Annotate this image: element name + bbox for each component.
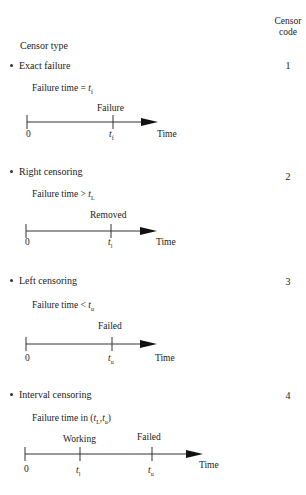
tick-sub: u	[111, 359, 114, 365]
tick-label: tl	[76, 465, 80, 477]
arrow-head-icon	[140, 340, 157, 348]
time-axis	[0, 110, 170, 130]
event-label: Failed	[98, 321, 122, 331]
censor-type-header: Censor type	[20, 40, 68, 51]
censor-code: 1	[278, 60, 298, 71]
formula-sub: f	[91, 89, 93, 95]
origin-label: 0	[26, 129, 31, 139]
section-title: Left censoring	[10, 275, 77, 286]
censor-code: 2	[278, 171, 298, 182]
axis-label: Time	[157, 129, 177, 139]
axis-label: Time	[156, 237, 176, 247]
formula-text: Failure time =	[32, 83, 88, 93]
section-title-text: Right censoring	[19, 166, 83, 177]
formula: Failure time in (tL,tu)	[32, 413, 111, 425]
formula-text: Failure time <	[32, 300, 88, 310]
origin-label: 0	[25, 237, 30, 247]
formula: Failure time < tu	[32, 300, 94, 312]
event-label: Removed	[90, 210, 126, 220]
censor-code: 4	[278, 390, 298, 401]
tick-sub: l	[79, 471, 81, 477]
bullet-icon	[10, 170, 13, 173]
time-axis	[0, 333, 170, 353]
formula-text: Failure time >	[32, 189, 88, 199]
section-title: Exact failure	[10, 60, 70, 71]
tick-label: tf	[109, 129, 114, 141]
tick-sub: f	[112, 135, 114, 141]
censor-code-header-line1: Censor	[268, 16, 306, 27]
tick-sub: u	[151, 471, 154, 477]
formula: Failure time > tL	[32, 189, 95, 201]
censor-code-header: Censor code	[268, 16, 306, 38]
origin-label: 0	[24, 464, 29, 474]
arrow-head-icon	[141, 118, 158, 126]
tick-label: tu	[148, 465, 154, 477]
axis-label: Time	[199, 460, 219, 470]
arrow-head-icon	[186, 450, 203, 458]
origin-label: 0	[25, 353, 30, 363]
tick-label: tu	[108, 353, 114, 365]
section-title: Interval censoring	[10, 389, 91, 400]
arrow-head-icon	[140, 227, 157, 235]
bullet-icon	[10, 393, 13, 396]
formula-sub: u	[91, 306, 94, 312]
bullet-icon	[10, 64, 13, 67]
formula-text: Failure time in (	[32, 413, 93, 423]
formula-text: )	[108, 413, 111, 423]
bullet-icon	[10, 279, 13, 282]
tick-label: tl	[108, 237, 112, 249]
event-label-working: Working	[63, 434, 96, 444]
section-title-text: Left censoring	[19, 275, 77, 286]
formula: Failure time = tf	[32, 83, 93, 95]
censor-code-header-line2: code	[268, 27, 306, 38]
axis-label: Time	[155, 353, 175, 363]
time-axis	[0, 446, 210, 466]
censor-code: 3	[278, 276, 298, 287]
event-label-failed: Failed	[137, 432, 161, 442]
tick-sub: l	[111, 243, 113, 249]
formula-sub: L	[91, 195, 95, 201]
section-title: Right censoring	[10, 166, 83, 177]
section-title-text: Exact failure	[19, 60, 70, 71]
section-title-text: Interval censoring	[19, 389, 91, 400]
